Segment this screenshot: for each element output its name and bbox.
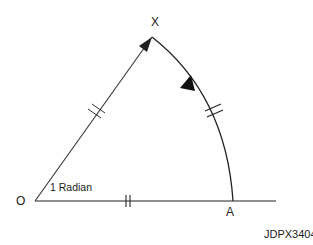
arc-xa — [152, 37, 233, 201]
label-apex-x: X — [151, 15, 159, 29]
label-arc-end-a: A — [226, 205, 234, 219]
radian-diagram: O 1 Radian X A JDPX3404 — [0, 0, 313, 245]
arc-arrowhead-icon — [180, 75, 195, 91]
label-angle: 1 Radian — [50, 181, 92, 193]
diagram-graphic — [0, 0, 313, 245]
radius-arrowhead-icon — [139, 37, 152, 52]
figure-id: JDPX3404 — [264, 228, 313, 240]
arc-equal-ticks-icon — [205, 104, 223, 117]
label-center-o: O — [16, 194, 25, 208]
radius-ox — [35, 37, 152, 201]
